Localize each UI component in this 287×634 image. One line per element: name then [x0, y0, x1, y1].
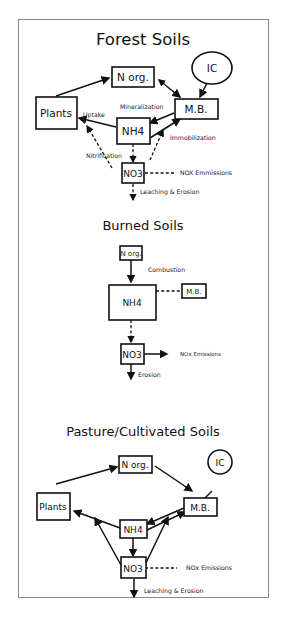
svg-text:M.B.: M.B. [190, 503, 210, 513]
svg-text:Plants: Plants [39, 502, 67, 512]
label-nox-emissions: NOx Emissions [186, 564, 232, 571]
label-erosion: Erosion [138, 371, 161, 378]
node-mb: M.B. [175, 99, 218, 119]
label-nox-emissions: NOx Emissions [180, 351, 221, 357]
svg-text:M.B.: M.B. [185, 103, 208, 115]
panel-title-burned: Burned Soils [102, 218, 183, 233]
node-mb: M.B. [184, 498, 217, 516]
svg-text:IC: IC [216, 458, 225, 468]
node-ic: IC [208, 450, 232, 474]
edge-nh4-to-plants [74, 511, 120, 528]
node-nh4: NH4 [109, 285, 156, 320]
edge-no3-to-mb [145, 517, 168, 565]
node-no3: NO3 [122, 163, 144, 183]
edge-no3-to-plants [87, 126, 112, 168]
node-ic: IC [192, 52, 232, 84]
label-uptake: Uptake [83, 111, 105, 119]
svg-text:NO3: NO3 [123, 564, 143, 574]
svg-text:NH4: NH4 [122, 298, 142, 308]
svg-text:N org.: N org. [121, 460, 148, 470]
label-immobilization: Immobilization [170, 134, 216, 141]
svg-text:NO3: NO3 [122, 350, 142, 360]
node-mb: M.B. [182, 284, 206, 298]
label-combustion: Combustion [148, 266, 185, 273]
node-plants: Plants [36, 97, 77, 129]
edge-norg-to-mb [155, 466, 192, 491]
node-n-org: N org. [120, 246, 142, 260]
edge-ic-to-mb [200, 83, 207, 97]
node-nh4: NH4 [120, 520, 147, 538]
edge-plants-to-norg [56, 78, 109, 96]
label-nitrification: Nitrification [86, 152, 122, 159]
edge-norg-mb [159, 80, 180, 97]
label-nox-emissions: NOX Emmissions [180, 169, 232, 176]
svg-text:NH4: NH4 [123, 525, 143, 535]
edge-nh4-to-plants-uptake [79, 118, 116, 127]
svg-text:N org.: N org. [117, 71, 149, 83]
edge-no3-to-plants [95, 518, 121, 565]
panel-title-forest: Forest Soils [96, 30, 190, 49]
node-no3: NO3 [121, 344, 144, 364]
panel-title-pasture: Pasture/Cultivated Soils [66, 424, 220, 439]
node-plants: Plants [37, 493, 70, 520]
label-leaching-erosion: Leaching & Erosion [144, 587, 203, 595]
nitrogen-cycle-diagram: Forest Soils N org. IC Plants M.B. [0, 0, 287, 634]
node-nh4: NH4 [117, 118, 150, 144]
svg-text:Plants: Plants [40, 107, 72, 119]
label-leaching-erosion: Leaching & Erosion [140, 188, 199, 196]
node-n-org: N org. [112, 67, 154, 87]
node-n-org: N org. [119, 456, 152, 473]
svg-text:N org.: N org. [120, 250, 141, 258]
edge-mb-to-nh4-mineralization [150, 113, 174, 123]
svg-text:IC: IC [207, 62, 217, 74]
panel-pasture-cultivated-soils: Pasture/Cultivated Soils N org. IC Plant… [37, 424, 232, 597]
edge-plants-to-norg [56, 467, 117, 484]
panel-forest-soils: Forest Soils N org. IC Plants M.B. [36, 30, 232, 200]
panel-burned-soils: Burned Soils N org. NH4 M.B. NO3 Combust… [102, 218, 220, 379]
node-no3: NO3 [121, 557, 146, 578]
svg-text:M.B.: M.B. [186, 288, 201, 296]
svg-text:NO3: NO3 [123, 169, 143, 179]
label-mineralization: Mineralization [120, 103, 164, 110]
svg-text:NH4: NH4 [122, 125, 145, 137]
